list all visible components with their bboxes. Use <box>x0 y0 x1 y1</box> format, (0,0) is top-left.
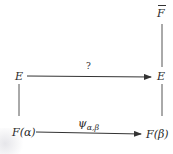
fbar-overline <box>158 5 166 6</box>
node-f-beta: F(β) <box>146 129 169 140</box>
edge-top-arrow <box>27 76 151 77</box>
edge-top-label: ? <box>86 62 91 71</box>
psi-subscript: α,β <box>87 123 100 132</box>
edge-bottom-label: ψα,β <box>78 118 99 132</box>
node-e-left: E <box>15 71 23 82</box>
node-e-right: E <box>157 71 165 82</box>
psi-symbol: ψ <box>78 117 87 130</box>
edge-bottom-arrow <box>36 132 141 134</box>
node-f-alpha: F(α) <box>12 127 36 138</box>
node-fbar: F <box>157 8 165 19</box>
